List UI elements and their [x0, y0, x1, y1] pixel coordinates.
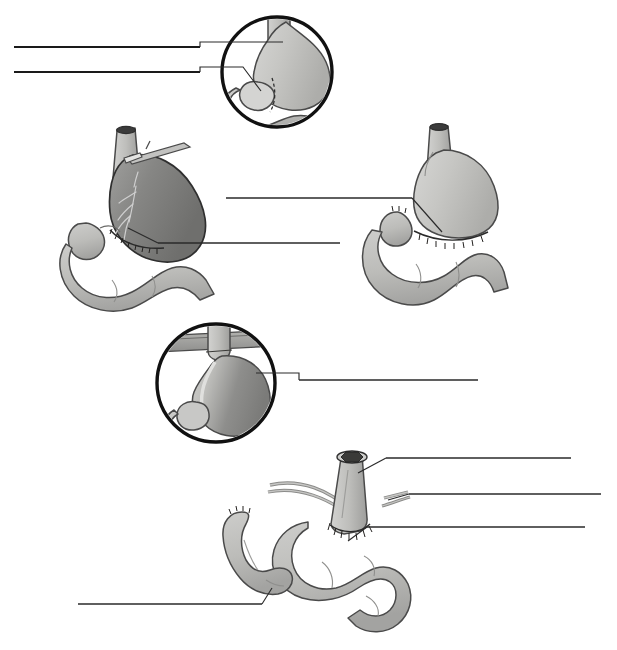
medical-illustration-canvas	[0, 0, 617, 650]
illustration-plate	[0, 0, 617, 650]
esophageal-lumen-e	[341, 452, 363, 462]
blind-afferent-limb	[380, 212, 412, 246]
antrum-d	[177, 402, 209, 430]
